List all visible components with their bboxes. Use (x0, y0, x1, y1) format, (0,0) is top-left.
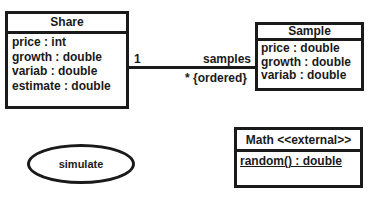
math-operations: random() : double (237, 152, 360, 169)
sample-class-box[interactable]: Sample price : double growth : double va… (255, 22, 364, 91)
math-class-name: Math <<external>> (237, 130, 360, 152)
share-attributes: price : int growth : double variab : dou… (8, 34, 126, 93)
simulate-use-case[interactable]: simulate (27, 144, 135, 184)
share-attribute: variab : double (12, 64, 126, 79)
sample-attribute: growth : double (261, 56, 361, 70)
share-class-box[interactable]: Share price : int growth : double variab… (5, 11, 129, 109)
math-operation: random() : double (240, 154, 360, 169)
share-attribute: growth : double (12, 50, 126, 65)
math-class-box[interactable]: Math <<external>> random() : double (234, 127, 363, 188)
use-case-label: simulate (59, 158, 104, 170)
sample-attribute: variab : double (261, 69, 361, 83)
operation-text: random() : double (240, 154, 342, 168)
share-class-name: Share (8, 14, 126, 34)
target-multiplicity: * {ordered} (185, 71, 247, 85)
share-attribute: price : int (12, 35, 126, 50)
target-role: samples (203, 52, 251, 66)
sample-attribute: price : double (261, 42, 361, 56)
sample-attributes: price : double growth : double variab : … (258, 41, 361, 83)
share-attribute: estimate : double (12, 79, 126, 94)
sample-class-name: Sample (258, 25, 361, 41)
source-multiplicity: 1 (134, 52, 141, 66)
association-line[interactable] (128, 66, 257, 69)
